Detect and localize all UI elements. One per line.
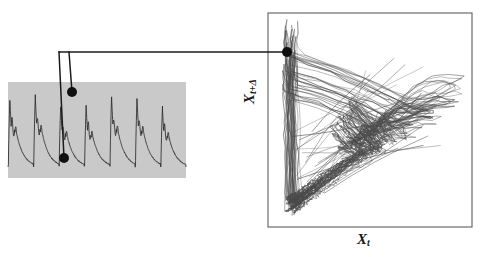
timeseries-lower-marker [59, 153, 69, 163]
y-axis-label: Xt+Δ [241, 79, 258, 104]
time-series-panel [8, 82, 186, 178]
x-axis-label-sub: t [367, 237, 370, 248]
attractor-marker [282, 47, 292, 57]
y-axis-label-main: X [241, 94, 257, 104]
timeseries-upper-marker [67, 87, 77, 97]
x-axis-label: Xt [357, 231, 370, 248]
attractor-panel [268, 13, 472, 227]
figure-canvas [0, 0, 483, 257]
x-axis-label-main: X [357, 231, 367, 247]
delay-embedding-figure: Xt+Δ Xt [0, 0, 483, 257]
y-axis-label-sub: t+Δ [247, 79, 258, 94]
